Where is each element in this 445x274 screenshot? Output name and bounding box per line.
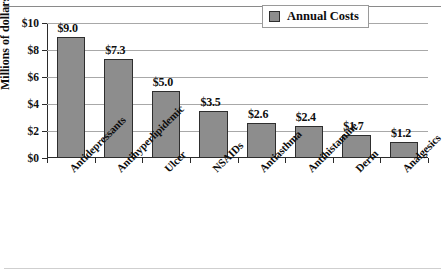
bar-value-label: $5.0 bbox=[153, 75, 173, 90]
x-tick-mark bbox=[238, 158, 239, 163]
bar-value-label: $2.4 bbox=[296, 110, 316, 125]
bar-value-label: $9.0 bbox=[58, 21, 78, 36]
y-tick-mark bbox=[42, 104, 47, 105]
y-tick-label: $2 bbox=[28, 125, 40, 137]
y-tick-label: $8 bbox=[28, 44, 40, 56]
y-axis-title: Millions of dollars bbox=[0, 0, 13, 90]
x-tick-mark bbox=[285, 158, 286, 163]
chart-figure: $0$2$4$6$8$10 $9.0$7.3$5.0$3.5$2.6$2.4$1… bbox=[0, 0, 445, 274]
x-tick-mark bbox=[428, 158, 429, 163]
gridline bbox=[47, 23, 428, 24]
bar bbox=[104, 59, 133, 158]
x-tick-mark bbox=[190, 158, 191, 163]
bottom-divider bbox=[4, 268, 441, 269]
plot-area: $0$2$4$6$8$10 $9.0$7.3$5.0$3.5$2.6$2.4$1… bbox=[47, 23, 428, 158]
x-tick-mark bbox=[142, 158, 143, 163]
x-tick-mark bbox=[95, 158, 96, 163]
y-tick-mark bbox=[42, 23, 47, 24]
y-tick-label: $6 bbox=[28, 71, 40, 83]
x-tick-mark bbox=[380, 158, 381, 163]
y-tick-mark bbox=[42, 77, 47, 78]
y-tick-label: $4 bbox=[28, 98, 40, 110]
bar-value-label: $7.3 bbox=[105, 43, 125, 58]
y-tick-label: $10 bbox=[22, 17, 39, 29]
top-divider bbox=[4, 6, 441, 7]
y-tick-mark bbox=[42, 131, 47, 132]
x-tick-mark bbox=[333, 158, 334, 163]
bar bbox=[57, 37, 86, 159]
legend-swatch-annual-costs bbox=[269, 11, 280, 22]
bar-value-label: $3.5 bbox=[200, 95, 220, 110]
gridline bbox=[47, 50, 428, 51]
chart-legend: Annual Costs bbox=[262, 5, 369, 28]
y-tick-mark bbox=[42, 50, 47, 51]
y-tick-label: $0 bbox=[28, 152, 40, 164]
legend-label-annual-costs: Annual Costs bbox=[287, 9, 359, 24]
bar-value-label: $1.2 bbox=[391, 126, 411, 141]
bar-value-label: $2.6 bbox=[248, 107, 268, 122]
x-tick-mark bbox=[47, 158, 48, 163]
